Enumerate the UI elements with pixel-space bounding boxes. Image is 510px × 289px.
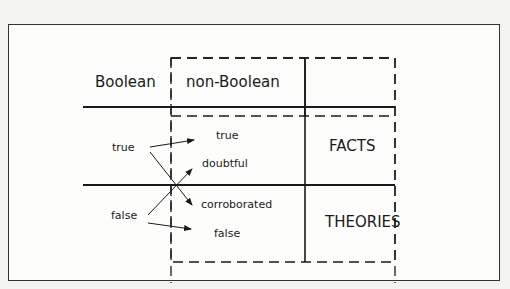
header-boolean: Boolean [95,75,156,90]
right-false: false [214,228,240,239]
right-corroborated: corroborated [201,199,272,210]
left-false: false [111,210,137,221]
row-theories: THEORIES [325,215,401,230]
right-true: true [216,130,239,141]
header-non-boolean: non-Boolean [186,75,280,90]
row-facts: FACTS [329,139,375,154]
dashed-region [0,0,510,289]
right-doubtful: doubtful [202,158,248,169]
left-true: true [112,142,135,153]
